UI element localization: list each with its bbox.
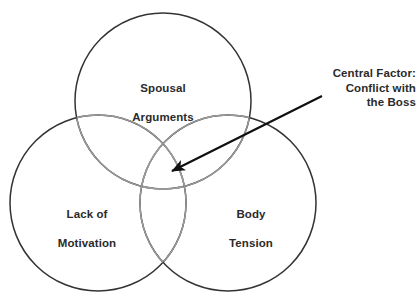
circle-right-overlap-top — [140, 115, 316, 291]
venn-diagram: Spousal Arguments Lack of Motivation Bod… — [0, 0, 419, 306]
circle-body-tension — [140, 115, 316, 291]
circle-lack-of-motivation — [10, 115, 186, 291]
circle-left-overlap-top — [10, 115, 186, 291]
venn-svg — [0, 0, 419, 306]
circle-left-overlap-right — [10, 115, 186, 291]
circle-spousal-overlap-right — [75, 13, 251, 189]
annotation-arrow — [172, 96, 322, 171]
circle-right-overlap-left — [140, 115, 316, 291]
circle-spousal-arguments — [75, 13, 251, 189]
circle-spousal-overlap-left — [75, 13, 251, 189]
